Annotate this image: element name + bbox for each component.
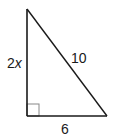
- vertical-leg-variable: x: [14, 55, 23, 71]
- horizontal-leg-label: 6: [61, 121, 69, 137]
- right-triangle-diagram: 2x 10 6: [0, 0, 116, 139]
- hypotenuse: [27, 9, 107, 116]
- vertical-leg-label: 2x: [7, 55, 23, 71]
- right-angle-marker: [27, 104, 39, 116]
- vertical-leg-coefficient: 2: [7, 55, 15, 71]
- triangle-figure: 2x 10 6: [0, 0, 116, 139]
- hypotenuse-label: 10: [71, 50, 87, 66]
